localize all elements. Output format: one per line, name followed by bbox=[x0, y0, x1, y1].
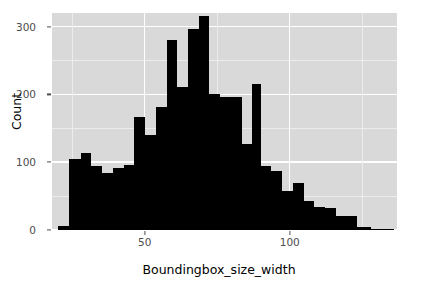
histogram-bar bbox=[113, 168, 124, 230]
plot-panel bbox=[52, 13, 397, 230]
histogram-bar bbox=[231, 97, 242, 230]
histogram-bar bbox=[81, 153, 91, 230]
histogram-bar bbox=[314, 207, 325, 230]
y-tick-label: 0 bbox=[29, 224, 36, 236]
y-tick-label: 100 bbox=[16, 156, 36, 168]
histogram-bar bbox=[177, 87, 188, 230]
histogram-bar bbox=[252, 84, 260, 230]
x-axis-title: Boundingbox_size_width bbox=[0, 262, 438, 277]
histogram-bar bbox=[220, 97, 231, 230]
y-tick-mark bbox=[47, 229, 51, 230]
histogram-bar bbox=[199, 16, 210, 230]
histogram-bar bbox=[145, 135, 156, 230]
histogram-bar bbox=[167, 40, 178, 230]
y-tick-mark bbox=[47, 26, 51, 27]
histogram-bar bbox=[242, 144, 253, 230]
histogram-bar bbox=[293, 183, 304, 230]
histogram-bar bbox=[304, 201, 315, 230]
histogram-bar bbox=[102, 173, 113, 230]
histogram-bar bbox=[261, 166, 272, 230]
y-tick-mark bbox=[47, 162, 51, 163]
histogram-bar bbox=[383, 229, 395, 230]
histogram-bar bbox=[209, 94, 220, 230]
histogram-bar bbox=[282, 191, 293, 230]
histogram-bar bbox=[325, 208, 336, 230]
histogram-bar bbox=[58, 226, 70, 230]
histogram-bar bbox=[336, 216, 347, 230]
histogram-bars bbox=[52, 13, 397, 230]
histogram-bar bbox=[134, 117, 145, 230]
y-tick-mark bbox=[47, 94, 51, 95]
histogram-bar bbox=[91, 166, 102, 230]
histogram-bar bbox=[188, 29, 199, 230]
histogram-figure: 0100200300 50100 Boundingbox_size_width … bbox=[0, 0, 438, 287]
histogram-bar bbox=[347, 216, 358, 230]
x-tick-mark bbox=[289, 231, 290, 235]
x-tick-mark bbox=[144, 231, 145, 235]
y-axis-title: Count bbox=[9, 72, 24, 152]
x-tick-label: 50 bbox=[138, 236, 151, 248]
histogram-bar bbox=[156, 107, 167, 230]
histogram-bar bbox=[371, 229, 383, 230]
y-tick-label: 300 bbox=[16, 21, 36, 33]
histogram-bar bbox=[124, 165, 135, 230]
histogram-bar bbox=[357, 227, 371, 230]
histogram-bar bbox=[271, 171, 282, 230]
histogram-bar bbox=[69, 159, 81, 230]
x-tick-label: 100 bbox=[280, 236, 300, 248]
